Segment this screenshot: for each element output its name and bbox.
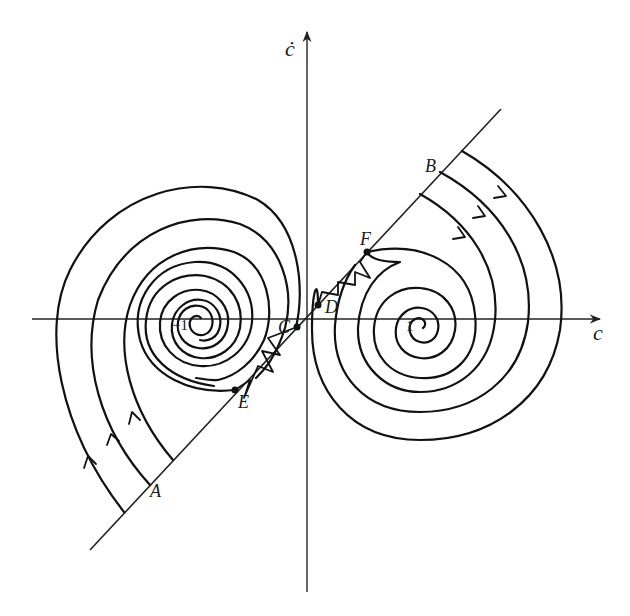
tick-label-minus-one: −1 [172,317,188,333]
label-A: A [149,481,162,501]
phase-portrait-diagram: ċ c −1 1 A B C D E F [0,0,630,616]
label-B: B [425,156,436,176]
label-E: E [237,392,249,412]
axes [32,32,600,592]
label-C: C [278,317,291,337]
point-C [294,324,301,331]
left-spiral [56,187,299,512]
tick-label-one: 1 [406,318,414,334]
label-F: F [359,229,372,249]
right-flow-arrows [453,186,506,239]
label-D: D [324,297,338,317]
left-flow-arrows [84,412,140,468]
right-spiral [312,151,562,440]
y-axis-label: ċ [285,36,295,61]
x-axis-label: c [593,320,603,345]
point-F [364,249,371,256]
point-D [315,302,322,309]
